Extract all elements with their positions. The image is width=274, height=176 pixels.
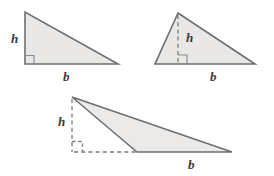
obtuse-triangle-right-angle-mark [72, 142, 83, 153]
acute-triangle-shape [155, 13, 255, 64]
obtuse-triangle-base-label: b [188, 157, 195, 172]
obtuse-triangle-height-label: h [58, 114, 65, 129]
obtuse-triangle-shape [72, 97, 232, 152]
right-triangle-group: h b [11, 12, 118, 84]
right-triangle-base-label: b [63, 69, 70, 84]
acute-triangle-height-label: h [186, 30, 193, 45]
acute-triangle-group: h b [155, 13, 255, 84]
right-triangle-shape [25, 12, 118, 64]
obtuse-triangle-group: h b [58, 97, 232, 172]
geometry-figure: h b h b h b [0, 0, 274, 176]
triangles-diagram: h b h b h b [0, 0, 274, 176]
acute-triangle-base-label: b [210, 69, 217, 84]
right-triangle-height-label: h [11, 31, 18, 46]
